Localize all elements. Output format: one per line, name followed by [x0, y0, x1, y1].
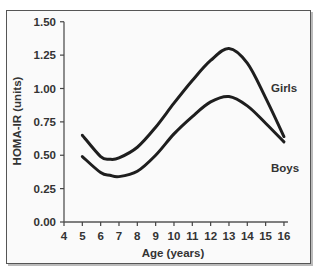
x-tick-label: 4 — [61, 230, 68, 242]
x-tick-label: 14 — [241, 230, 254, 242]
x-tick-label: 16 — [278, 230, 291, 242]
x-tick-label: 13 — [223, 230, 236, 242]
y-tick-label: 0.50 — [34, 149, 56, 161]
x-tick-label: 8 — [134, 230, 141, 242]
x-tick-label: 11 — [186, 230, 199, 242]
x-tick-label: 7 — [116, 230, 122, 242]
x-tick-label: 5 — [79, 230, 86, 242]
x-tick-label: 12 — [204, 230, 217, 242]
x-tick-label: 6 — [97, 230, 103, 242]
y-tick-label: 0.75 — [34, 116, 57, 128]
y-tick-label: 1.00 — [34, 83, 56, 95]
y-axis-title: HOMA-IR (units) — [11, 76, 23, 165]
line-boys — [82, 96, 284, 176]
series-label-girls: Girls — [271, 82, 297, 94]
line-girls — [82, 48, 284, 159]
series-lines — [82, 48, 284, 176]
y-tick-label: 0.25 — [34, 183, 57, 195]
y-tick-label: 0.00 — [34, 216, 56, 228]
y-tick-label: 1.50 — [34, 16, 56, 28]
series-label-boys: Boys — [271, 162, 299, 174]
axes: 0.000.250.500.751.001.251.50456789101112… — [34, 16, 291, 242]
x-axis-title: Age (years) — [142, 247, 205, 259]
x-tick-label: 10 — [168, 230, 181, 242]
y-tick-label: 1.25 — [34, 49, 57, 61]
x-tick-label: 9 — [152, 230, 158, 242]
x-tick-label: 15 — [259, 230, 272, 242]
line-chart: 0.000.250.500.751.001.251.50456789101112… — [0, 0, 321, 274]
